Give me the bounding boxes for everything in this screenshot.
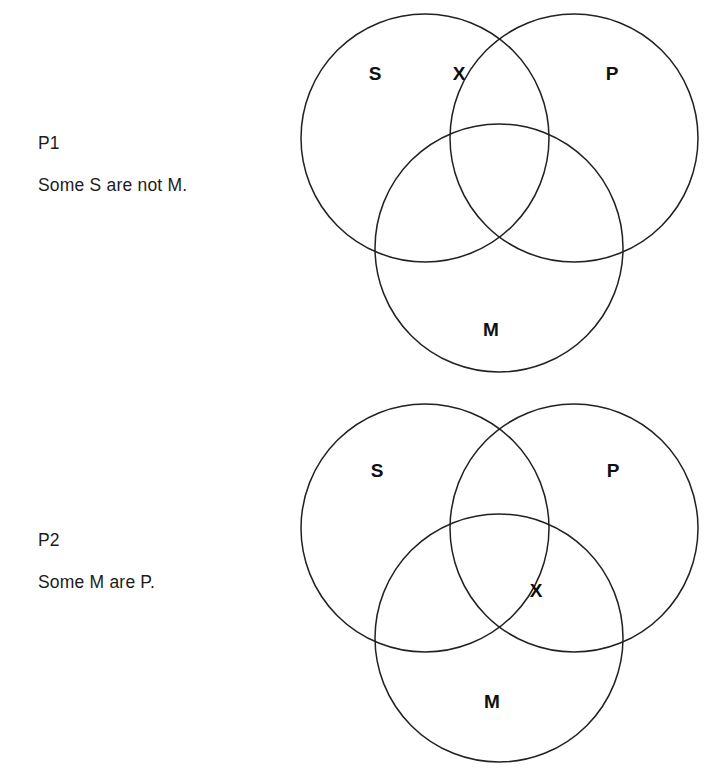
venn-label-m: M [484,691,500,712]
premise-tag-p1: P1 [38,133,288,155]
venn-diagram-p2: S P M X [280,390,719,780]
venn-circle-s [301,14,549,262]
venn-label-s: S [371,460,384,481]
premise-block-p2: P2 Some M are P. [38,530,288,594]
premise-statement-p1: Some S are not M. [38,175,288,197]
venn-circle-p [450,404,698,652]
venn-label-m: M [483,319,499,340]
venn-diagram-p1: S P M X [280,0,719,390]
venn-circle-m [375,124,623,372]
premise-statement-p2: Some M are P. [38,572,288,594]
premise-tag-p2: P2 [38,530,288,552]
venn-label-s: S [369,63,382,84]
venn-x-mark: X [530,580,543,601]
venn-label-p: P [606,63,619,84]
venn-circle-s [301,404,549,652]
premise-block-p1: P1 Some S are not M. [38,133,288,197]
venn-circle-m [375,514,623,762]
venn-label-p: P [607,460,620,481]
worksheet-canvas: P1 Some S are not M. P2 Some M are P. S … [0,0,719,780]
venn-circle-p [450,14,698,262]
venn-x-mark: X [453,63,466,84]
